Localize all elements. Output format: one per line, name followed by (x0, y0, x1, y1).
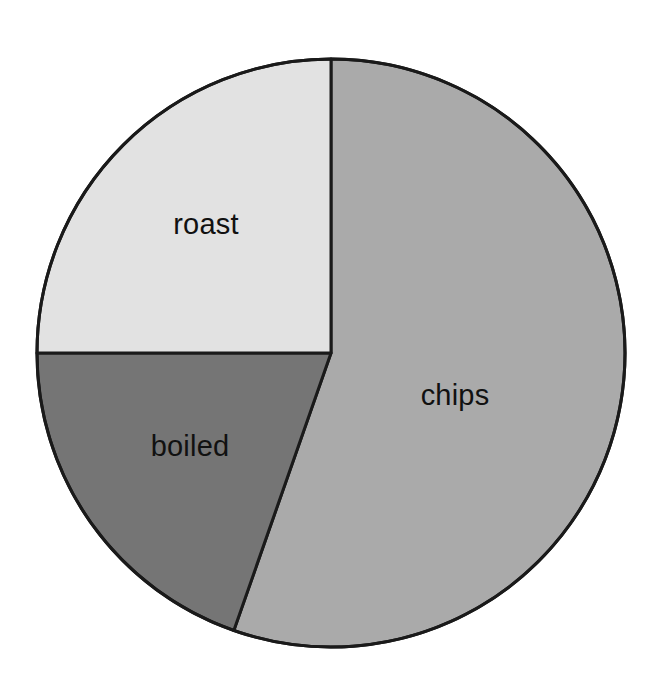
slice-label-boiled: boiled (151, 430, 230, 462)
slice-label-chips: chips (421, 379, 490, 411)
pie-chart-figure: chips boiled roast (0, 0, 665, 684)
pie-chart-svg: chips boiled roast (0, 0, 665, 684)
pie-slices-group (37, 59, 625, 647)
slice-label-roast: roast (173, 208, 238, 240)
